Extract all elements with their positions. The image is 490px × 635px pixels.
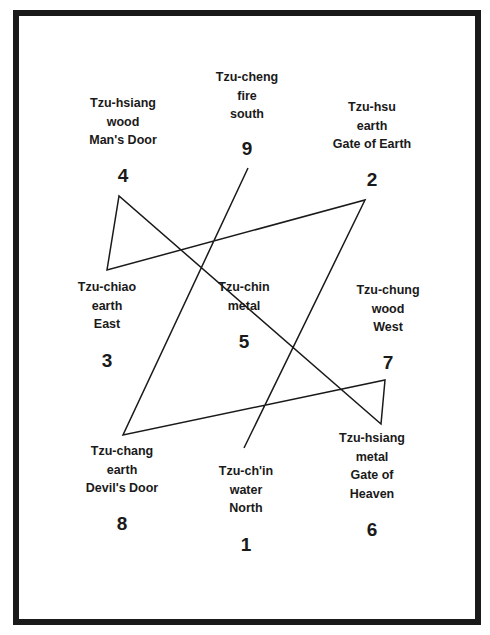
- sector-6-label: Tzu-hsiang metal Gate of Heaven: [339, 429, 405, 503]
- sector-3-direction: East: [78, 315, 136, 334]
- sector-9-direction: south: [216, 105, 279, 124]
- sector-9-element: fire: [216, 87, 279, 106]
- sector-1-name: Tzu-ch'in: [219, 462, 273, 481]
- sector-2-element: earth: [333, 117, 412, 136]
- sector-7-direction: West: [356, 318, 419, 337]
- sector-8-element: earth: [86, 461, 158, 480]
- sector-8-name: Tzu-chang: [86, 442, 158, 461]
- sector-6-gate-line1: Gate of: [339, 466, 405, 485]
- sector-4-label: Tzu-hsiang wood Man's Door: [89, 94, 157, 150]
- sector-3-number: 3: [102, 350, 113, 372]
- sector-7-element: wood: [356, 300, 419, 319]
- sector-7-label: Tzu-chung wood West: [356, 281, 419, 337]
- sector-5-element: metal: [218, 297, 269, 316]
- sector-8-gate: Devil's Door: [86, 479, 158, 498]
- sector-4-element: wood: [89, 113, 157, 132]
- sector-1-element: water: [219, 481, 273, 500]
- sector-6-number: 6: [367, 519, 378, 541]
- sector-9-name: Tzu-cheng: [216, 68, 279, 87]
- sector-9-number: 9: [242, 138, 253, 160]
- sector-4-gate: Man's Door: [89, 131, 157, 150]
- sector-9-label: Tzu-cheng fire south: [216, 68, 279, 124]
- sector-3-element: earth: [78, 297, 136, 316]
- sector-3-name: Tzu-chiao: [78, 278, 136, 297]
- sector-7-name: Tzu-chung: [356, 281, 419, 300]
- sector-8-number: 8: [117, 513, 128, 535]
- sector-5-label: Tzu-chin metal: [218, 278, 269, 315]
- sector-7-number: 7: [383, 352, 394, 374]
- sector-4-name: Tzu-hsiang: [89, 94, 157, 113]
- sector-6-name: Tzu-hsiang: [339, 429, 405, 448]
- sector-2-gate: Gate of Earth: [333, 135, 412, 154]
- sector-2-name: Tzu-hsu: [333, 98, 412, 117]
- sector-8-label: Tzu-chang earth Devil's Door: [86, 442, 158, 498]
- sector-6-element: metal: [339, 448, 405, 467]
- sector-2-label: Tzu-hsu earth Gate of Earth: [333, 98, 412, 154]
- sector-5-number: 5: [239, 331, 250, 353]
- sector-6-gate-line2: Heaven: [339, 485, 405, 504]
- sector-2-number: 2: [367, 169, 378, 191]
- sector-5-name: Tzu-chin: [218, 278, 269, 297]
- sector-1-number: 1: [241, 534, 252, 556]
- sector-3-label: Tzu-chiao earth East: [78, 278, 136, 334]
- sector-1-direction: North: [219, 499, 273, 518]
- sector-1-label: Tzu-ch'in water North: [219, 462, 273, 518]
- sector-4-number: 4: [118, 165, 129, 187]
